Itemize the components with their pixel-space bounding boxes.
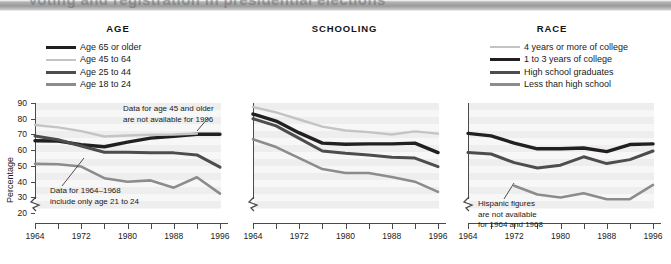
legend-item-label: Age 25 to 44 [80, 67, 131, 78]
x-tick [561, 224, 562, 229]
x-tick-label: 1988 [377, 231, 407, 241]
x-tick-label: 1988 [592, 231, 622, 241]
panel-title-race: RACE [452, 23, 652, 34]
x-tick [81, 224, 82, 229]
y-tick-label: 60 [11, 145, 27, 155]
legend-line-swatch [46, 71, 76, 74]
x-tick-label: 1980 [546, 231, 576, 241]
legend-line-swatch [46, 83, 76, 86]
figure-root: Voting and registration in presidential … [0, 0, 671, 264]
annotation-line: include only age 21 to 24 [50, 197, 139, 208]
x-tick [322, 224, 323, 229]
x-tick [276, 224, 277, 229]
legend-item-label: Age 45 to 64 [80, 54, 131, 65]
clipped-title-text: Voting and registration in presidential … [28, 0, 386, 8]
legend-item-age-2[interactable]: Age 25 to 44 [46, 66, 142, 79]
series-line-4-years-or-more-of-college [253, 107, 438, 135]
annotation-line: Data for 1964–1968 [50, 186, 139, 197]
x-tick [220, 224, 221, 229]
x-tick-label: 1988 [159, 231, 189, 241]
annotation-hispanic-note: Hispanic figuresare not availablefor 196… [478, 199, 543, 231]
legend-line-swatch [46, 59, 76, 61]
annotation-line: Hispanic figures [478, 199, 543, 210]
series-line-white [468, 133, 653, 151]
x-axis-line-age [35, 223, 228, 224]
annotation-age-45-note: Data for age 45 and olderare not availab… [123, 104, 214, 125]
legend-item-age-3[interactable]: Age 18 to 24 [46, 79, 142, 92]
panel-title-schooling: SCHOOLING [237, 23, 452, 34]
x-axis-line-schooling [253, 223, 446, 224]
plot-area-schooling: 19641972198019881996 [253, 103, 438, 221]
x-tick [104, 224, 105, 229]
x-tick [253, 224, 254, 229]
x-tick-label: 1972 [284, 231, 314, 241]
x-tick [438, 224, 439, 229]
x-tick-label: 1964 [20, 231, 50, 241]
annotation-line: for 1964 and 1968 [478, 220, 543, 231]
x-tick-label: 1996 [638, 231, 668, 241]
x-tick-label: 1980 [113, 231, 143, 241]
legend-item-age-1[interactable]: Age 45 to 64 [46, 54, 142, 67]
x-tick-label: 1964 [453, 231, 483, 241]
x-tick [607, 224, 608, 229]
x-tick-label: 1996 [205, 231, 235, 241]
x-tick [151, 224, 152, 229]
panel-age: AGE Age 65 or olderAge 45 to 64Age 25 to… [0, 11, 237, 264]
series-line-hispanic [514, 185, 653, 199]
x-tick [653, 224, 654, 229]
x-tick [369, 224, 370, 229]
y-tick-label: 20 [11, 208, 27, 218]
annotation-line: Data for age 45 and older [123, 104, 214, 115]
series-line-black [468, 151, 653, 168]
x-tick [197, 224, 198, 229]
y-axis-title: Percentage [5, 157, 15, 203]
legend-item-label: Age 18 to 24 [80, 79, 131, 90]
x-tick-label: 1972 [499, 231, 529, 241]
panel-title-age: AGE [18, 23, 218, 34]
x-tick [128, 224, 129, 229]
y-tick-label: 80 [11, 114, 27, 124]
x-tick [630, 224, 631, 229]
x-tick [174, 224, 175, 229]
x-tick-label: 1972 [66, 231, 96, 241]
x-tick [468, 224, 469, 229]
x-tick [584, 224, 585, 229]
annotation-line: are not available [478, 210, 543, 221]
x-tick [415, 224, 416, 229]
x-tick [35, 224, 36, 229]
series-layer-schooling [253, 103, 442, 221]
series-line-1-to-3-years-of-college [253, 114, 438, 153]
annotation-age-2124-note: Data for 1964–1968include only age 21 to… [50, 186, 139, 207]
y-tick-label: 70 [11, 129, 27, 139]
x-tick-label: 1996 [423, 231, 453, 241]
panel-schooling: SCHOOLING 4 years or more of college1 to… [237, 11, 452, 264]
clipped-title-band: Voting and registration in presidential … [0, 0, 671, 11]
legend-age: Age 65 or olderAge 45 to 64Age 25 to 44A… [46, 41, 142, 91]
legend-item-age-0[interactable]: Age 65 or older [46, 41, 142, 54]
x-tick-label: 1980 [331, 231, 361, 241]
legend-item-label: Age 65 or older [80, 42, 142, 53]
x-tick [299, 224, 300, 229]
legend-line-swatch [46, 46, 76, 49]
series-line-less-than-high-school [253, 139, 438, 192]
x-tick-label: 1964 [238, 231, 268, 241]
x-tick [392, 224, 393, 229]
series-line-age-45-to-64 [35, 125, 197, 136]
annotation-line: are not available for 1996 [123, 115, 214, 126]
x-tick [58, 224, 59, 229]
x-tick [346, 224, 347, 229]
y-tick-label: 90 [11, 98, 27, 108]
